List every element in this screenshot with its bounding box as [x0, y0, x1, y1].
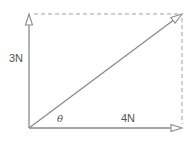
resultant-vector-arrow: [29, 14, 182, 128]
horizontal-vector-arrow: [29, 125, 182, 132]
horizontal-magnitude-label: 4N: [121, 112, 135, 124]
angle-label: θ: [57, 113, 63, 124]
arrowhead-icon: [171, 14, 182, 23]
vertical-vector-arrow: [26, 14, 33, 128]
arrowhead-icon: [26, 14, 33, 25]
vertical-magnitude-label: 3N: [9, 52, 23, 64]
vector-diagram: 3N 4N θ: [0, 0, 190, 141]
arrowhead-icon: [171, 125, 182, 132]
